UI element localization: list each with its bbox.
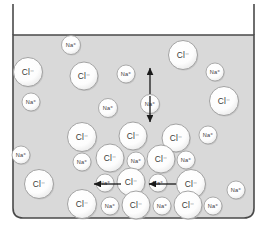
chloride-ion: Cl⁻	[70, 62, 99, 91]
ion-circle	[68, 190, 97, 219]
ion-circle	[174, 191, 202, 219]
ion-circle	[101, 197, 119, 215]
ion-circle	[99, 99, 118, 118]
ion-circle	[119, 122, 147, 150]
chloride-ion: Cl⁻	[210, 87, 240, 117]
chloride-ion: Cl⁻	[25, 170, 55, 200]
ion-circle	[153, 197, 171, 215]
ion-circle	[169, 41, 198, 70]
ion-circle	[227, 181, 245, 199]
ion-circle	[149, 174, 167, 192]
beaker	[13, 4, 254, 35]
ion-circle	[62, 36, 81, 55]
ion-circle	[25, 170, 54, 199]
chloride-ion: Cl⁻	[14, 58, 44, 88]
chloride-ion: Cl⁻	[96, 144, 125, 173]
ion-circle	[210, 87, 239, 116]
ion-circle	[204, 197, 222, 215]
ion-circle	[117, 65, 135, 83]
ion-circle	[12, 146, 30, 164]
ion-circle	[206, 63, 224, 81]
dissolution-diagram: Na⁺Cl⁻Cl⁻Na⁺Cl⁻Na⁺Na⁺Na⁺Na⁺Cl⁻Na⁺Cl⁻Cl⁻C…	[0, 0, 270, 233]
ion-circle	[177, 151, 195, 169]
ion-circle	[22, 93, 40, 111]
ion-circle	[96, 144, 124, 172]
chloride-ion: Cl⁻	[122, 191, 151, 220]
diagram-canvas: Na⁺Cl⁻Cl⁻Na⁺Cl⁻Na⁺Na⁺Na⁺Na⁺Cl⁻Na⁺Cl⁻Cl⁻C…	[0, 0, 270, 233]
ion-circle	[147, 145, 175, 173]
chloride-ion: Cl⁻	[68, 123, 98, 153]
chloride-ion: Cl⁻	[174, 191, 203, 220]
ion-circle	[199, 126, 217, 144]
ion-circle	[68, 123, 97, 152]
ion-circle	[127, 152, 145, 170]
ion-circle	[73, 153, 91, 171]
ion-circle	[70, 62, 98, 90]
chloride-ion: Cl⁻	[68, 190, 98, 220]
chloride-ion: Cl⁻	[147, 145, 176, 174]
chloride-ion: Cl⁻	[169, 41, 199, 71]
chloride-ion: Cl⁻	[119, 122, 148, 151]
ion-circle	[122, 191, 150, 219]
ion-circle	[14, 58, 43, 87]
ion-circle	[96, 174, 114, 192]
